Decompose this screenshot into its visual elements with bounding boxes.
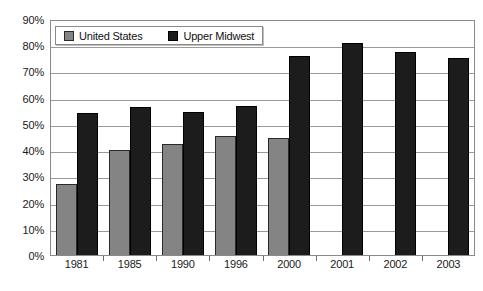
bar (183, 112, 204, 255)
bar-group (421, 21, 474, 255)
legend-swatch-icon (168, 31, 178, 41)
x-axis-label: 2003 (422, 258, 475, 270)
y-tick-label: 0% (29, 251, 45, 262)
bar-chart: 90%80%70%60%50%40%30%20%10%0% 1981198519… (0, 0, 483, 291)
x-axis-labels: 19811985199019962000200120022003 (50, 258, 475, 270)
bar (56, 184, 77, 255)
bar-group (51, 21, 104, 255)
bars-layer (51, 21, 474, 255)
y-tick-label: 20% (23, 198, 44, 209)
x-axis-label: 1990 (156, 258, 209, 270)
x-axis-label: 1996 (209, 258, 262, 270)
x-axis-label: 2002 (369, 258, 422, 270)
legend-swatch-icon (64, 31, 74, 41)
y-tick-label: 50% (23, 119, 44, 130)
y-tick-label: 70% (23, 67, 44, 78)
x-axis-label: 2000 (263, 258, 316, 270)
x-axis-label: 2001 (316, 258, 369, 270)
bar (268, 138, 289, 255)
bar (342, 43, 363, 255)
bar (109, 150, 130, 255)
y-tick-label: 30% (23, 172, 44, 183)
legend-entry: Upper Midwest (168, 30, 254, 42)
bar (215, 136, 236, 255)
y-tick-label: 40% (23, 146, 44, 157)
bar (395, 52, 416, 255)
bar-group (210, 21, 263, 255)
bar (77, 113, 98, 255)
legend-label: United States (79, 30, 142, 42)
bar-group (157, 21, 210, 255)
bar (236, 106, 257, 255)
y-tick-label: 80% (23, 41, 44, 52)
y-axis: 90%80%70%60%50%40%30%20%10%0% (0, 20, 50, 256)
x-axis-label: 1981 (50, 258, 103, 270)
legend-entry: United States (64, 30, 142, 42)
bar-group (104, 21, 157, 255)
x-axis-label: 1985 (103, 258, 156, 270)
bar-group (315, 21, 368, 255)
bar (130, 107, 151, 255)
plot-area (50, 20, 475, 256)
y-tick-label: 60% (23, 93, 44, 104)
y-tick-label: 10% (23, 224, 44, 235)
bar (289, 56, 310, 255)
bar (448, 58, 469, 255)
bar-group (368, 21, 421, 255)
bar (162, 144, 183, 255)
bar-group (263, 21, 316, 255)
legend-label: Upper Midwest (183, 30, 254, 42)
y-tick-label: 90% (23, 15, 44, 26)
chart-legend: United StatesUpper Midwest (55, 26, 263, 45)
